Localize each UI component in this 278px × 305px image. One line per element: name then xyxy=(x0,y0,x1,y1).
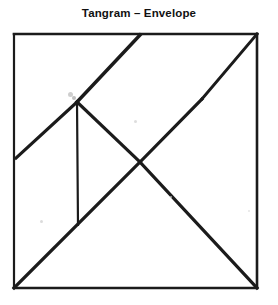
tangram-figure: Tangram – Envelope xyxy=(0,0,278,305)
cross-to-right-vertex xyxy=(140,99,202,162)
speck-low-left xyxy=(40,220,43,223)
junction-to-left-edge xyxy=(16,102,77,158)
speck-right-edge xyxy=(248,210,250,212)
right-vertex-to-top-right xyxy=(202,34,257,99)
vertical-divider xyxy=(77,102,78,225)
speck-mid xyxy=(134,120,137,123)
junction-to-cross xyxy=(77,102,140,162)
cross-to-bottom-right xyxy=(140,162,257,288)
speck-low-right xyxy=(170,196,172,198)
apex-to-junction xyxy=(77,35,140,102)
speck-junction-blot xyxy=(72,96,76,100)
tangram-line-group xyxy=(14,34,257,288)
tangram-diagram xyxy=(0,0,278,305)
